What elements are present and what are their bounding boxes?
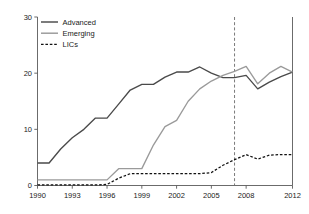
y-tick-label: 30 bbox=[24, 13, 32, 22]
x-tick-label: 2012 bbox=[284, 191, 301, 200]
y-tick-label: 20 bbox=[24, 69, 32, 78]
x-tick-label: 2002 bbox=[168, 191, 185, 200]
y-axis-ticks: 0102030 bbox=[24, 13, 38, 191]
legend-label-emerging: Emerging bbox=[63, 29, 95, 38]
x-tick-label: 2005 bbox=[203, 191, 220, 200]
data-series-group bbox=[38, 66, 293, 185]
chart-canvas: 0102030 19901993199619992002200520082012… bbox=[0, 0, 309, 214]
series-line-advanced bbox=[38, 67, 293, 163]
x-tick-label: 1999 bbox=[133, 191, 150, 200]
x-tick-label: 1996 bbox=[99, 191, 116, 200]
x-tick-label: 2008 bbox=[238, 191, 255, 200]
x-tick-label: 1990 bbox=[29, 191, 46, 200]
y-tick-label: 10 bbox=[24, 125, 32, 134]
series-line-emerging bbox=[38, 66, 293, 179]
chart-legend: AdvancedEmergingLICs bbox=[41, 18, 96, 49]
x-tick-label: 1993 bbox=[64, 191, 81, 200]
x-axis-ticks: 19901993199619992002200520082012 bbox=[29, 186, 301, 201]
y-tick-label: 0 bbox=[28, 181, 32, 190]
legend-label-lics: LICs bbox=[63, 40, 79, 49]
line-chart-figure: 0102030 19901993199619992002200520082012… bbox=[0, 0, 309, 214]
legend-label-advanced: Advanced bbox=[63, 18, 96, 27]
